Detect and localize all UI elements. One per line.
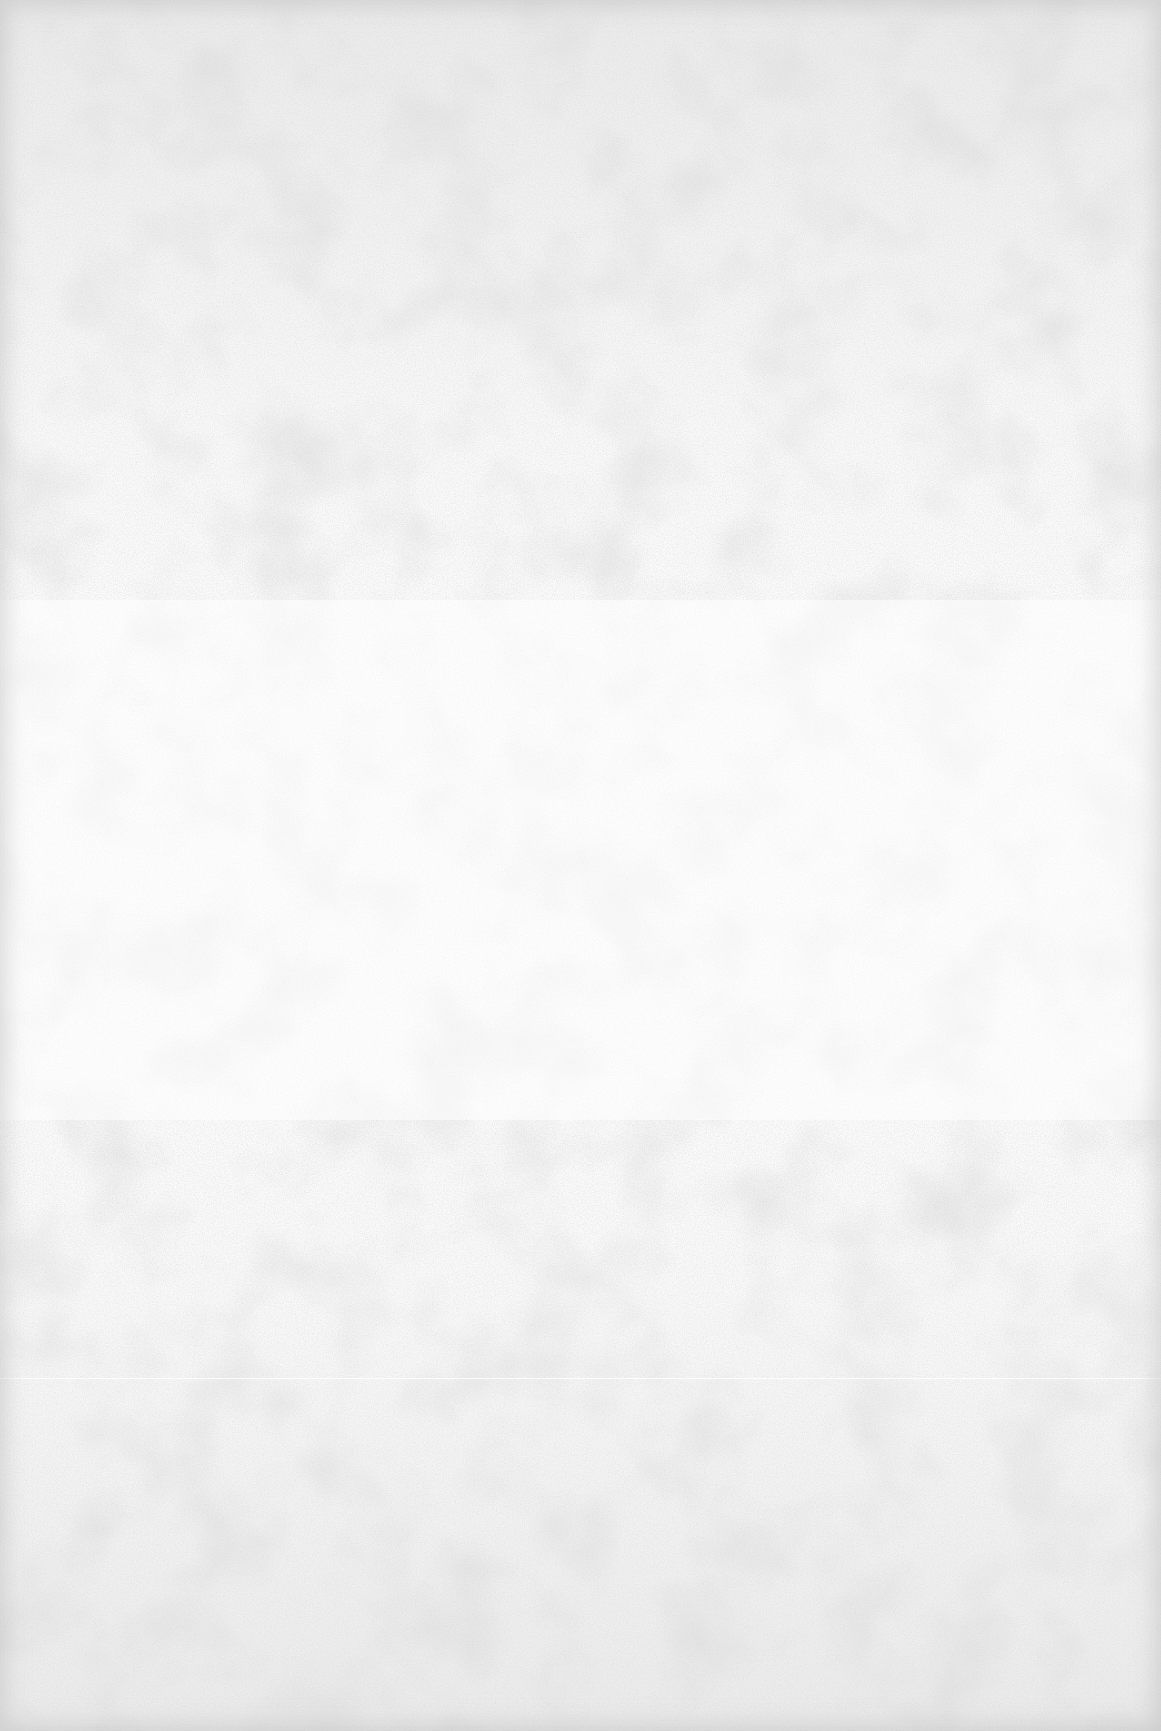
blank-scanned-page — [0, 0, 1161, 1731]
paper-grain-texture — [0, 0, 1161, 1731]
